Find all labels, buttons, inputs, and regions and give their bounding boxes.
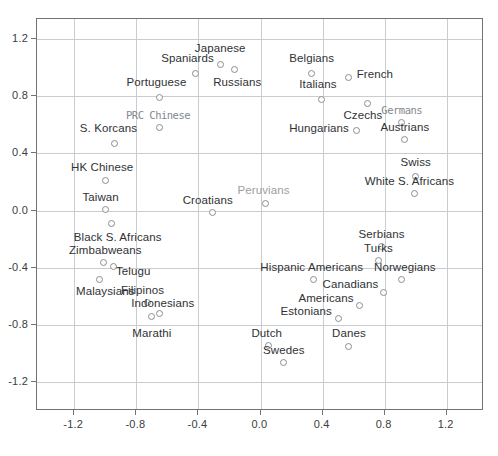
x-axis-tick-label: 0.0: [252, 418, 268, 430]
x-axis-tick: [384, 410, 385, 415]
gridline-vertical: [74, 19, 75, 409]
data-point-label: Filipinos: [121, 285, 164, 297]
x-axis-tick: [197, 410, 198, 415]
data-point-label: Italians: [299, 79, 336, 91]
data-point[interactable]: [411, 190, 418, 197]
data-point[interactable]: [148, 313, 155, 320]
data-point-label: Hispanic Americans: [260, 262, 363, 274]
data-point-label: Canadians: [323, 279, 379, 291]
data-point-label: Serbians: [358, 229, 404, 241]
x-axis-tick: [260, 410, 261, 415]
y-axis-tick-label: 1.2: [0, 32, 28, 44]
y-axis-tick: [31, 152, 36, 153]
data-point[interactable]: [100, 259, 107, 266]
gridline-horizontal: [37, 96, 482, 97]
y-axis-tick: [31, 324, 36, 325]
data-point[interactable]: [345, 343, 352, 350]
data-point[interactable]: [209, 209, 216, 216]
data-point-label: White S. Africans: [365, 176, 454, 188]
data-point[interactable]: [353, 127, 360, 134]
x-axis-tick-label: -1.2: [63, 418, 83, 430]
data-point[interactable]: [345, 74, 352, 81]
y-axis-tick-label: 0.4: [0, 146, 28, 158]
data-point[interactable]: [192, 70, 199, 77]
data-point[interactable]: [231, 66, 238, 73]
data-point-label: Swiss: [400, 157, 431, 169]
x-axis-tick: [322, 410, 323, 415]
gridline-horizontal: [37, 382, 482, 383]
data-point[interactable]: [102, 177, 109, 184]
x-axis-tick-label: 1.2: [438, 418, 454, 430]
data-point-label: Americans: [298, 293, 353, 305]
y-axis-tick: [31, 95, 36, 96]
x-axis-tick: [73, 410, 74, 415]
data-point[interactable]: [262, 200, 269, 207]
data-point-label: Czechs: [343, 110, 382, 122]
y-axis-tick-label: 0.0: [0, 204, 28, 216]
data-point-label: French: [357, 69, 393, 81]
data-point-label: Hungarians: [289, 123, 349, 135]
data-point[interactable]: [280, 359, 287, 366]
data-point-label: Indonesians: [131, 298, 194, 310]
data-point[interactable]: [380, 289, 387, 296]
data-point-label: S. Korcans: [80, 123, 137, 135]
data-point-label: Taiwan: [82, 192, 118, 204]
data-point-label: Telugu: [116, 266, 151, 278]
y-axis-tick: [31, 38, 36, 39]
x-axis-tick-label: -0.4: [188, 418, 208, 430]
y-axis-tick-label: -0.4: [0, 261, 28, 273]
y-axis-tick-label: -0.8: [0, 318, 28, 330]
data-point[interactable]: [308, 70, 315, 77]
data-point[interactable]: [96, 276, 103, 283]
data-point-label: Germans: [381, 105, 422, 116]
gridline-horizontal: [37, 39, 482, 40]
y-axis-tick-label: 0.8: [0, 89, 28, 101]
y-axis-tick: [31, 210, 36, 211]
data-point[interactable]: [156, 124, 163, 131]
data-point-label: Marathi: [132, 328, 171, 340]
gridline-vertical: [447, 19, 448, 409]
data-point[interactable]: [108, 220, 115, 227]
x-axis-tick: [135, 410, 136, 415]
data-point-label: Russians: [213, 77, 261, 89]
data-point-label: Croatians: [183, 195, 233, 207]
data-point-label: Black S. Africans: [74, 232, 162, 244]
x-axis-tick: [446, 410, 447, 415]
scatter-plot-figure: JapaneseSpaniardsRussiansBelgiansFrenchI…: [0, 0, 498, 456]
x-axis-tick-label: 0.4: [314, 418, 330, 430]
gridline-horizontal: [37, 153, 482, 154]
data-point[interactable]: [310, 276, 317, 283]
y-axis-tick: [31, 381, 36, 382]
data-point-label: Turks: [364, 243, 393, 255]
data-point[interactable]: [156, 94, 163, 101]
data-point[interactable]: [356, 302, 363, 309]
data-point[interactable]: [156, 310, 163, 317]
data-point[interactable]: [217, 61, 224, 68]
data-point-label: Belgians: [289, 53, 334, 65]
data-point-label: Norwegians: [374, 262, 436, 274]
x-axis-tick-label: -0.8: [125, 418, 145, 430]
data-point[interactable]: [111, 140, 118, 147]
data-point[interactable]: [335, 315, 342, 322]
data-point[interactable]: [364, 100, 371, 107]
data-point-label: PRC Chinese: [126, 110, 190, 121]
y-axis-tick-label: -1.2: [0, 375, 28, 387]
data-point-label: Portuguese: [127, 77, 187, 89]
x-axis-tick-label: 0.8: [376, 418, 392, 430]
data-point[interactable]: [398, 276, 405, 283]
data-point-label: Swedes: [263, 345, 305, 357]
data-point[interactable]: [102, 206, 109, 213]
data-point-label: Spaniards: [161, 53, 214, 65]
data-point[interactable]: [318, 96, 325, 103]
data-point-label: Zimbabweans: [69, 245, 142, 257]
data-point-label: Austrians: [380, 122, 429, 134]
y-axis-tick: [31, 267, 36, 268]
data-point-label: Dutch: [251, 328, 282, 340]
data-point-label: Peruvians: [238, 185, 290, 197]
gridline-vertical: [198, 19, 199, 409]
data-point-label: Estonians: [280, 306, 331, 318]
plot-area: JapaneseSpaniardsRussiansBelgiansFrenchI…: [36, 18, 483, 410]
data-point[interactable]: [401, 136, 408, 143]
data-point-label: HK Chinese: [71, 162, 133, 174]
data-point-label: Danes: [332, 328, 366, 340]
